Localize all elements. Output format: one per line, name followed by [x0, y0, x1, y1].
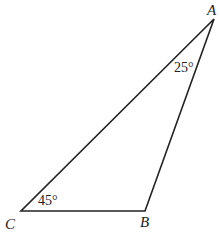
- vertex-label-a: A: [206, 2, 217, 18]
- angle-label-a: 25°: [174, 60, 194, 75]
- angle-label-c: 45°: [38, 193, 58, 208]
- triangle-diagram: A B C 25° 45°: [0, 0, 220, 234]
- vertex-label-c: C: [5, 216, 16, 232]
- vertex-label-b: B: [140, 214, 149, 230]
- triangle-abc: [21, 19, 214, 211]
